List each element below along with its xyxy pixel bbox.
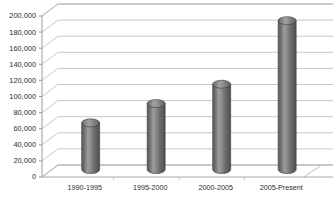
chart-canvas: 020,00040,00060,00080,000100,000120,0001… bbox=[0, 0, 333, 202]
bar-top-cap bbox=[278, 17, 296, 25]
bar-top-cap bbox=[147, 100, 165, 108]
bar-body bbox=[147, 104, 165, 174]
bar bbox=[213, 80, 231, 173]
y-axis-tick-label: 160,000 bbox=[9, 44, 36, 53]
bar-chart: 020,00040,00060,00080,000100,000120,0001… bbox=[0, 0, 333, 202]
x-axis-tick-label: 2005-Present bbox=[260, 183, 303, 192]
bar-body bbox=[213, 84, 231, 173]
bar bbox=[82, 119, 100, 174]
y-axis-tick-label: 180,000 bbox=[9, 28, 36, 37]
bar-body bbox=[278, 21, 296, 174]
y-axis-tick-label: 200,000 bbox=[9, 11, 36, 20]
y-axis-tick-label: 140,000 bbox=[9, 60, 36, 69]
x-axis-tick-label: 1990-1995 bbox=[68, 183, 102, 192]
bar-body bbox=[82, 123, 100, 174]
bar-top-cap bbox=[82, 119, 100, 127]
y-axis-tick-label: 20,000 bbox=[13, 156, 36, 165]
y-axis-tick-label: 100,000 bbox=[9, 92, 36, 101]
bar-top-cap bbox=[213, 80, 231, 88]
y-axis-tick-label: 0 bbox=[32, 172, 36, 181]
bar bbox=[147, 100, 165, 174]
x-axis-tick-label: 1995-2000 bbox=[133, 183, 167, 192]
y-axis-tick-label: 120,000 bbox=[9, 76, 36, 85]
y-axis-tick-label: 40,000 bbox=[13, 140, 36, 149]
x-axis-tick-label: 2000-2005 bbox=[199, 183, 233, 192]
y-axis-tick-label: 80,000 bbox=[13, 108, 36, 117]
bar bbox=[278, 17, 296, 174]
y-axis-tick-label: 60,000 bbox=[13, 124, 36, 133]
